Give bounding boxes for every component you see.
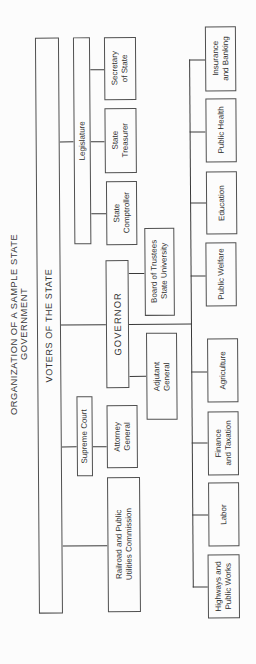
governor-label: GOVERNOR <box>112 292 122 356</box>
connector-voters-commission <box>62 545 107 547</box>
dept-label: Finance and Taxation <box>213 421 233 466</box>
connector-legislature-treasurer <box>91 141 105 142</box>
connector-supreme-court-attorney <box>93 446 107 447</box>
dept-label: Agriculture <box>218 351 228 389</box>
connector-voters-supreme-court <box>62 446 77 447</box>
connector-governor-adjutant <box>129 375 146 377</box>
secretary-of-state-box: Secretary of State <box>104 37 136 100</box>
voters-label: VOTERS OF THE STATE <box>44 269 55 383</box>
board-of-trustees-label: Board of Trustees State University <box>149 240 169 303</box>
adjutant-general-label: Adjutant General <box>152 362 172 391</box>
dept-finance-and-taxation-box: Finance and Taxation <box>208 411 239 475</box>
connector-legislature-comptroller <box>91 213 106 214</box>
railroad-utilities-commission-label: Railroad and Public Utilities Commission <box>114 508 135 580</box>
dept-agriculture-box: Agriculture <box>207 338 238 402</box>
connector-legislature-secretary <box>90 69 104 70</box>
dept-label: Labor <box>219 504 229 525</box>
legislature-box: Legislature <box>73 37 91 244</box>
connector-dept <box>190 131 206 133</box>
supreme-court-box: Supreme Court <box>76 396 93 476</box>
attorney-general-box: Attorney General <box>107 405 138 468</box>
connector-voters-legislature <box>60 141 74 142</box>
dept-labor-box: Labor <box>208 482 239 546</box>
dept-public-welfare-box: Public Welfare <box>205 242 236 306</box>
dept-label: Highways and Public Works <box>214 561 234 611</box>
legislature-label: Legislature <box>77 121 87 160</box>
dept-highways-and-public-works-box: Highways and Public Works <box>208 554 240 618</box>
dept-education-box: Education <box>206 171 237 234</box>
org-chart-canvas: ORGANIZATION OF A SAMPLE STATE GOVERNMEN… <box>0 0 256 664</box>
supreme-court-label: Supreme Court <box>80 409 90 463</box>
state-comptroller-box: State Comptroller <box>106 181 137 245</box>
dept-label: Education <box>216 185 226 221</box>
railroad-utilities-commission-box: Railroad and Public Utilities Commission <box>107 477 141 612</box>
state-treasurer-box: State Treasurer <box>104 108 136 173</box>
connector-dept <box>191 371 207 373</box>
connector-governor-board <box>129 272 145 274</box>
state-treasurer-label: State Treasurer <box>111 123 131 158</box>
connector-voters-governor <box>61 324 106 326</box>
governor-box: GOVERNOR <box>105 260 129 388</box>
connector-dept <box>192 442 208 444</box>
connector-dept <box>192 514 208 516</box>
connector-dept <box>191 275 207 277</box>
dept-label: Public Health <box>216 107 226 154</box>
connector-governor-departments <box>129 323 192 325</box>
dept-label: Insurance and Banking <box>210 37 230 82</box>
adjutant-general-box: Adjutant General <box>146 333 178 420</box>
attorney-general-label: Attorney General <box>112 422 132 452</box>
dept-insurance-and-banking-box: Insurance and Banking <box>205 26 236 91</box>
connector-dept <box>189 59 205 61</box>
secretary-of-state-label: Secretary of State <box>110 51 130 85</box>
connector-dept <box>190 202 206 204</box>
dept-public-health-box: Public Health <box>205 98 236 162</box>
org-chart: VOTERS OF THE STATE Legislature Secretar… <box>0 0 256 664</box>
voters-of-the-state-box: VOTERS OF THE STATE <box>35 37 63 613</box>
board-of-trustees-box: Board of Trustees State University <box>144 228 175 316</box>
connector-dept <box>193 586 209 588</box>
state-comptroller-label: State Comptroller <box>112 192 132 233</box>
dept-label: Public Welfare <box>216 249 226 301</box>
